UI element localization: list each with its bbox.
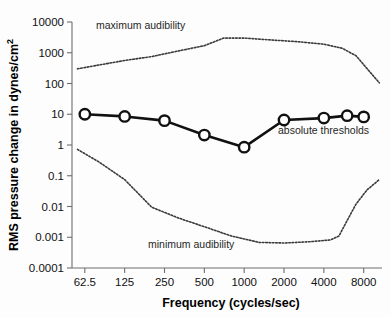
chart-container: 0.00010.0010.010.1110100100010000 62.512… (0, 0, 391, 317)
x-tick-label-6: 4000 (311, 276, 337, 288)
x-tick-label-1: 125 (115, 276, 134, 288)
series-minimum-audibility (77, 149, 379, 243)
series-layer (77, 38, 379, 243)
data-point-marker (319, 113, 329, 123)
x-axis-ticks (85, 268, 364, 273)
data-point-marker (342, 110, 352, 120)
y-tick-label-7: 1000 (38, 47, 64, 59)
data-point-marker (359, 112, 369, 122)
y-tick-label-1: 0.001 (35, 231, 64, 243)
data-point-marker (80, 109, 90, 119)
y-tick-label-3: 0.1 (48, 170, 64, 182)
chart-annotations: maximum audibilityabsolute thresholdsmin… (96, 19, 369, 250)
data-point-marker (119, 111, 129, 121)
x-tick-label-3: 500 (195, 276, 214, 288)
annotation-absolute-thresholds: absolute thresholds (278, 124, 369, 136)
y-axis-ticks (67, 22, 72, 268)
annotation-minimum-audibility: minimum audibility (148, 238, 235, 250)
series-maximum-audibility (77, 38, 379, 83)
y-tick-label-8: 10000 (32, 16, 64, 28)
y-tick-label-4: 1 (58, 139, 64, 151)
x-tick-label-4: 1000 (231, 276, 257, 288)
y-axis-title-superscript: 2 (5, 39, 15, 44)
y-tick-label-0: 0.0001 (29, 262, 64, 274)
y-tick-label-2: 0.01 (42, 201, 64, 213)
annotation-maximum-audibility: maximum audibility (96, 19, 186, 31)
x-tick-label-5: 2000 (271, 276, 297, 288)
y-tick-label-6: 100 (45, 78, 64, 90)
y-axis-tick-labels: 0.00010.0010.010.1110100100010000 (29, 16, 64, 274)
data-point-marker (199, 130, 209, 140)
y-tick-label-5: 10 (51, 108, 64, 120)
y-axis-title: RMS pressure change in dynes/cm2 (5, 39, 21, 251)
audibility-log-chart: 0.00010.0010.010.1110100100010000 62.512… (0, 0, 391, 317)
x-axis-title: Frequency (cycles/sec) (162, 296, 300, 310)
data-point-marker (239, 142, 249, 152)
x-axis-tick-labels: 62.51252505001000200040008000 (74, 276, 377, 288)
x-tick-label-0: 62.5 (74, 276, 96, 288)
x-tick-label-2: 250 (155, 276, 174, 288)
plot-axes (67, 22, 382, 273)
y-axis-title-text: RMS pressure change in dynes/cm (7, 44, 21, 251)
data-point-marker (159, 115, 169, 125)
x-tick-label-7: 8000 (351, 276, 377, 288)
